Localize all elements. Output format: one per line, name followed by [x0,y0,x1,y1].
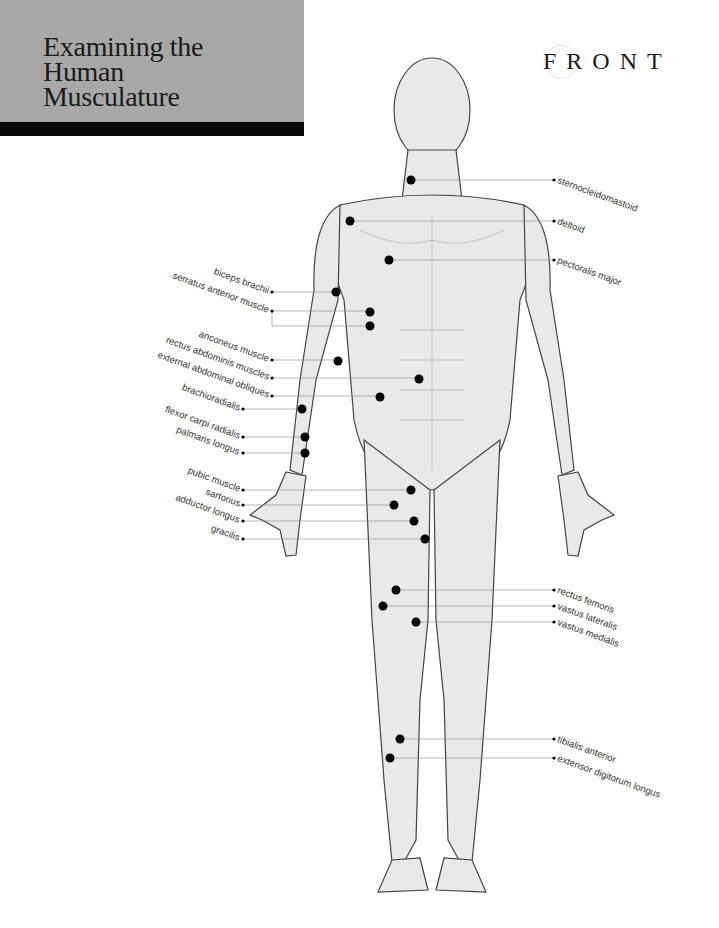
marker-biceps-brachii [332,288,341,297]
marker-tibialis-anterior [396,735,405,744]
marker-brachioradialis [298,405,307,414]
marker-deltoid [346,217,355,226]
marker-adductor-longus [410,517,419,526]
marker-serratus-anterior-1 [366,308,375,317]
marker-anconeus [334,357,343,366]
marker-rectus-femoris [392,586,401,595]
marker-external-obliques [376,393,385,402]
marker-serratus-anterior-2 [366,322,375,331]
right-leg [434,440,500,862]
marker-sartorius [390,501,399,510]
marker-extensor-digitorum-longus [386,754,395,763]
marker-gracilis [421,535,430,544]
right-foot [436,858,486,892]
marker-flexor-carpi-radialis [301,433,310,442]
marker-sternocleidomastoid [407,176,416,185]
left-foot [378,858,428,892]
right-hand [558,472,614,556]
musculature-figure [0,0,719,928]
marker-rectus-abdominis [415,375,424,384]
marker-palmaris-longus [301,449,310,458]
marker-vastus-lateralis [379,602,388,611]
neck [402,150,462,200]
head [394,58,470,162]
marker-pectoralis-major [385,256,394,265]
left-arm [290,205,340,475]
marker-vastus-medialis [412,618,421,627]
marker-pubic-muscle [407,486,416,495]
right-arm [524,205,574,475]
left-hand [250,472,306,556]
